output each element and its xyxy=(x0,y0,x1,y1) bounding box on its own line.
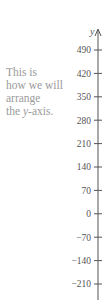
tick-group: 490420350280210140700−70−140−210 xyxy=(71,45,102,289)
y-axis-diagram: y 490420350280210140700−70−140−210 xyxy=(0,0,112,306)
y-axis-label: y xyxy=(89,26,95,37)
tick-label: 350 xyxy=(77,92,92,102)
tick-label: 420 xyxy=(77,69,92,79)
tick-label: 0 xyxy=(86,209,91,219)
tick-label: 70 xyxy=(82,186,92,196)
tick-label: 280 xyxy=(77,116,92,126)
tick-label: −210 xyxy=(71,279,91,289)
tick-label: 210 xyxy=(77,139,92,149)
tick-label: −140 xyxy=(71,256,91,266)
tick-label: 490 xyxy=(77,45,92,55)
tick-label: −70 xyxy=(76,233,91,243)
tick-label: 140 xyxy=(77,162,92,172)
